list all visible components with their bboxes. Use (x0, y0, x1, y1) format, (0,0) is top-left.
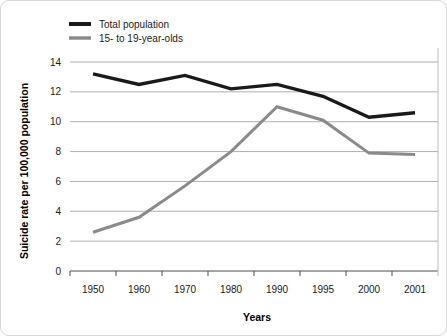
x-tick-label: 2001 (404, 284, 427, 295)
y-tick-label: 6 (55, 176, 61, 187)
x-tick-label: 2000 (358, 284, 381, 295)
legend-label-2: 15- to 19-year-olds (99, 33, 183, 44)
suicide-rate-line-chart: Total population15- to 19-year-olds 0246… (1, 1, 447, 336)
y-axis-title: Suicide rate per 100,000 population (18, 83, 30, 259)
x-tick-label: 1995 (312, 284, 335, 295)
legend-label-1: Total population (99, 19, 169, 30)
y-axis-tick-labels: 02468101214 (50, 57, 62, 277)
y-tick-label: 14 (50, 57, 62, 68)
x-axis-tick-labels: 19501960197019801990199520002001 (82, 284, 427, 295)
series-line-1 (93, 74, 415, 117)
x-tick-label: 1970 (174, 284, 197, 295)
x-tick-label: 1980 (220, 284, 243, 295)
y-tick-label: 8 (55, 146, 61, 157)
x-axis-title: Years (243, 311, 271, 323)
y-tick-label: 10 (50, 116, 62, 127)
data-series (93, 74, 415, 232)
x-tick-label: 1950 (82, 284, 105, 295)
y-tick-label: 0 (55, 266, 61, 277)
chart-figure: Total population15- to 19-year-olds 0246… (0, 0, 447, 336)
y-tick-label: 4 (55, 206, 61, 217)
grid-lines (70, 62, 438, 241)
chart-legend: Total population15- to 19-year-olds (69, 19, 183, 44)
y-tick-label: 2 (55, 236, 61, 247)
x-tick-label: 1990 (266, 284, 289, 295)
y-tick-label: 12 (50, 86, 62, 97)
series-line-2 (93, 107, 415, 232)
x-tick-label: 1960 (128, 284, 151, 295)
